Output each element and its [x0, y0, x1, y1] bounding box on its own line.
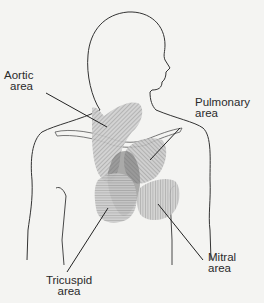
tricuspid-label-line2: area	[39, 286, 99, 297]
pulmonary-label: Pulmonary area	[195, 97, 250, 119]
head-outline	[88, 12, 170, 110]
aortic-label-line2: area	[4, 81, 33, 92]
auscultation-diagram: Aortic area Pulmonary area Tricuspid are…	[0, 0, 264, 303]
tricuspid-leader	[67, 208, 108, 272]
tricuspid-label: Tricuspid area	[39, 275, 99, 297]
tricuspid-area	[95, 173, 137, 222]
pulmonary-label-line2: area	[195, 108, 250, 119]
mitral-area	[137, 179, 179, 220]
mitral-leader	[158, 204, 203, 260]
mitral-label: Mitral area	[208, 252, 236, 274]
aortic-label: Aortic area	[4, 70, 33, 92]
mitral-label-line2: area	[208, 263, 236, 274]
